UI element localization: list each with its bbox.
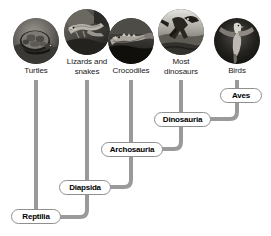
clade-node-aves[interactable]: Aves bbox=[220, 88, 262, 103]
turtle-photo bbox=[13, 18, 59, 64]
taxon-dinosaurs: Most dinosaurs bbox=[150, 9, 212, 76]
taxon-label-squamates-line2: snakes bbox=[75, 67, 100, 76]
crocodile-photo bbox=[108, 18, 154, 64]
taxon-label-dinosaurs-line1: Most bbox=[173, 57, 190, 66]
bird-photo bbox=[214, 18, 260, 64]
taxon-label-birds: Birds bbox=[206, 66, 268, 76]
clade-node-archosauria[interactable]: Archosauria bbox=[101, 142, 163, 157]
crocodile-photo-art bbox=[108, 18, 154, 64]
clade-node-reptilia[interactable]: Reptilia bbox=[11, 209, 61, 224]
branch-reptilia-to-diapsida bbox=[36, 80, 87, 217]
clade-node-diapsida[interactable]: Diapsida bbox=[59, 180, 111, 195]
taxon-birds: Birds bbox=[206, 18, 268, 76]
dinosaur-photo bbox=[158, 9, 204, 55]
taxon-label-dinosaurs: Most dinosaurs bbox=[150, 57, 212, 76]
dinosaur-photo-art bbox=[158, 9, 204, 55]
taxon-label-dinosaurs-line2: dinosaurs bbox=[164, 67, 198, 76]
cladogram-diagram: Turtles bbox=[0, 0, 271, 236]
bird-photo-art bbox=[214, 18, 260, 64]
turtle-photo-art bbox=[13, 18, 59, 64]
clade-node-dinosauria[interactable]: Dinosauria bbox=[154, 112, 211, 127]
branch-diapsida-to-archosauria bbox=[87, 80, 131, 187]
